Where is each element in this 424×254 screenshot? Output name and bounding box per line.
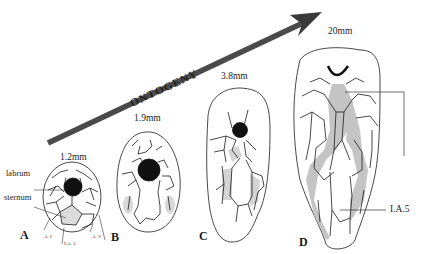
panel-letter-d: D — [299, 236, 308, 248]
ontogeny-diagram — [0, 0, 424, 254]
ai-label: A. I — [44, 234, 52, 239]
labrum-label: labrum — [6, 169, 30, 178]
size-label-a: 1.2mm — [60, 153, 87, 163]
ia5-label: I.A.5 — [390, 205, 410, 215]
size-label-c: 3.8mm — [221, 72, 248, 82]
size-label-b: 1.9mm — [134, 114, 161, 124]
size-label-d: 20mm — [328, 27, 352, 37]
av-label: A. V — [92, 234, 102, 239]
panel-letter-c: C — [199, 230, 208, 242]
specimen-c — [207, 88, 270, 242]
ia5-small-label: I.A. 5 — [64, 241, 76, 246]
panel-letter-a: A — [20, 229, 29, 241]
specimen-b — [117, 132, 180, 232]
specimen-d — [294, 48, 404, 249]
panel-letter-b: B — [111, 231, 119, 243]
sternum-label: sternum — [4, 193, 31, 202]
specimen-a — [34, 162, 105, 244]
